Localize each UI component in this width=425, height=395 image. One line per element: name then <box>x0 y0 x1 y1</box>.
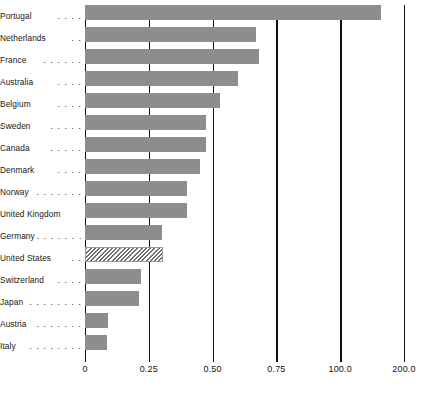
tick-mark <box>149 350 150 362</box>
bar-netherlands <box>85 27 256 42</box>
label-dot-leader: . . . . . . . <box>31 187 82 197</box>
gridline-200-0 <box>404 5 405 350</box>
category-label: Portugal <box>0 11 32 21</box>
gridline-0-75 <box>276 5 277 350</box>
category-label-row: Denmark. . . . <box>0 159 85 181</box>
category-label-row: France. . . . . . <box>0 49 85 71</box>
x-tick-label: 200.0 <box>392 364 416 374</box>
x-tick-label: 0.50 <box>203 364 221 374</box>
category-label-row: Netherlands. . <box>0 27 85 49</box>
x-axis: 00.250.500.75100.0200.0 <box>85 350 425 395</box>
category-label: Sweden <box>0 121 31 131</box>
gridline-100-0 <box>340 5 341 350</box>
category-label: Japan <box>0 297 23 307</box>
label-dot-leader: . . . . <box>36 165 82 175</box>
bar-germany <box>85 225 162 240</box>
category-label-row: Austria. . . . . . . <box>0 313 85 335</box>
label-dot-leader: . . . . . <box>32 143 82 153</box>
label-dot-leader: . . . . . . . <box>37 231 82 241</box>
category-label: Belgium <box>0 99 31 109</box>
category-label-row: Portugal. . . . <box>0 5 85 27</box>
x-tick-label: 0.75 <box>267 364 285 374</box>
bar-australia <box>85 71 238 86</box>
bar-switzerland <box>85 269 141 284</box>
category-label: Australia <box>0 77 33 87</box>
x-tick-label: 0.25 <box>140 364 158 374</box>
label-dot-leader: . . . . . . . <box>29 319 82 329</box>
bar-united-kingdom <box>85 203 187 218</box>
bar-austria <box>85 313 108 328</box>
category-label: Norway <box>0 187 29 197</box>
category-label: Canada <box>0 143 30 153</box>
category-label-row: Canada. . . . . <box>0 137 85 159</box>
label-dot-leader: . . . . <box>34 11 82 21</box>
bar-sweden <box>85 115 206 130</box>
category-label-row: Japan. . . . . . . . <box>0 291 85 313</box>
tick-mark <box>404 350 405 362</box>
label-dot-leader: . . . . . <box>33 121 82 131</box>
label-dot-leader: . . <box>53 253 82 263</box>
category-label-row: Germany. . . . . . . <box>0 225 85 247</box>
category-label: Denmark <box>0 165 34 175</box>
tick-mark <box>85 350 86 362</box>
category-label: United States <box>0 253 51 263</box>
category-label: Switzerland <box>0 275 44 285</box>
bar-italy <box>85 335 107 350</box>
label-dot-leader: . . . . <box>33 99 82 109</box>
category-label: France <box>0 55 26 65</box>
label-dot-leader: . . . . <box>46 275 82 285</box>
category-label-column: Portugal. . . .Netherlands. .France. . .… <box>0 0 85 350</box>
category-label-row: Belgium. . . . <box>0 93 85 115</box>
category-label-row: United States. . <box>0 247 85 269</box>
category-label-row: Australia. . . . <box>0 71 85 93</box>
category-label-row: Switzerland. . . . <box>0 269 85 291</box>
tick-mark <box>340 350 341 362</box>
category-label: Germany <box>0 231 35 241</box>
category-label-row: Sweden. . . . . <box>0 115 85 137</box>
bar-canada <box>85 137 206 152</box>
category-label-row: Norway. . . . . . . <box>0 181 85 203</box>
category-label-row: Italy. . . . . . . . <box>0 335 85 357</box>
bar-united-states <box>85 247 163 262</box>
bar-chart: Portugal. . . .Netherlands. .France. . .… <box>0 0 425 395</box>
category-label: Netherlands <box>0 33 46 43</box>
label-dot-leader: . . . . . . . . <box>25 297 82 307</box>
bar-denmark <box>85 159 200 174</box>
label-dot-leader: . . . . <box>35 77 82 87</box>
x-tick-label: 100.0 <box>328 364 352 374</box>
category-label: United Kingdom <box>0 209 60 219</box>
bar-norway <box>85 181 187 196</box>
category-label: Italy <box>0 341 16 351</box>
x-tick-label: 0 <box>82 364 87 374</box>
category-label-row: United Kingdom <box>0 203 85 225</box>
bar-france <box>85 49 259 64</box>
bar-japan <box>85 291 139 306</box>
tick-mark <box>276 350 277 362</box>
category-label: Austria <box>0 319 27 329</box>
label-dot-leader: . . <box>48 33 82 43</box>
label-dot-leader: . . . . . . <box>28 55 82 65</box>
bar-portugal <box>85 5 381 20</box>
plot-area <box>85 0 425 350</box>
label-dot-leader: . . . . . . . . <box>18 341 82 351</box>
bar-belgium <box>85 93 220 108</box>
tick-mark <box>213 350 214 362</box>
